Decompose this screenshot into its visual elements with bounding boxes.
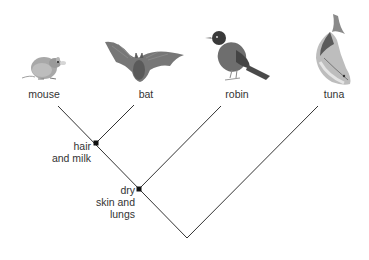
cladogram: mouse bat robin tuna hair and milk dry s…: [0, 0, 369, 260]
branch-tuna: [187, 106, 318, 238]
robin-illustration-icon: [205, 31, 270, 80]
tuna-illustration-icon: [316, 14, 351, 85]
cladogram-branches: [0, 0, 369, 260]
bat-illustration-icon: [105, 42, 184, 82]
taxon-label-tuna: tuna: [324, 88, 344, 100]
trait-line: dry: [96, 184, 135, 196]
trait-line: skin and: [96, 196, 135, 208]
node-dry-skin-and-lungs: [137, 187, 142, 192]
trait-line: and milk: [52, 152, 91, 164]
mouse-illustration-icon: [22, 57, 66, 79]
taxon-label-mouse: mouse: [28, 88, 60, 100]
node-hair-and-milk: [94, 141, 99, 146]
trait-line: hair: [52, 140, 91, 152]
taxon-label-robin: robin: [225, 88, 248, 100]
trait-label-hair-and-milk: hair and milk: [52, 140, 91, 164]
trait-line: lungs: [96, 208, 135, 220]
taxon-label-bat: bat: [139, 88, 154, 100]
branch-bat: [96, 105, 134, 143]
branch-robin: [139, 106, 221, 189]
trait-label-dry-skin-and-lungs: dry skin and lungs: [96, 184, 135, 220]
